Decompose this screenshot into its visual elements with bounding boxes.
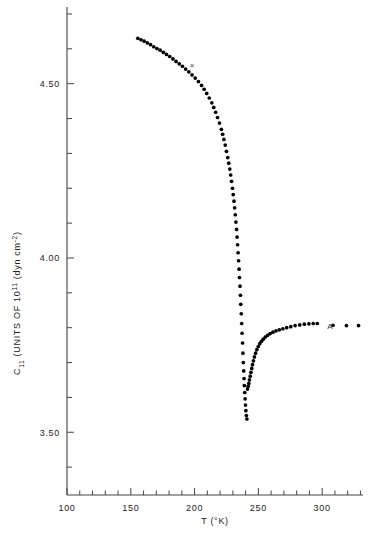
data-point <box>161 50 165 54</box>
data-point <box>250 367 254 371</box>
data-point <box>174 60 178 64</box>
data-point <box>274 329 278 333</box>
y-axis-subscript: 11 <box>18 360 25 368</box>
data-point <box>231 186 235 190</box>
data-point <box>302 322 306 326</box>
data-point <box>225 149 229 153</box>
data-point <box>240 322 244 326</box>
data-point <box>229 173 233 177</box>
y-axis-title: C11 (UNITS OF 1011 (dyn cm-2) <box>11 231 25 375</box>
data-point <box>242 369 246 373</box>
data-point <box>146 41 150 45</box>
data-point <box>238 284 242 288</box>
data-point <box>230 179 234 183</box>
data-point <box>149 43 153 47</box>
x-tick-label: 100 <box>58 503 75 513</box>
data-point <box>190 73 194 77</box>
data-point <box>242 377 246 381</box>
x-tick-label: 250 <box>250 503 267 513</box>
data-point <box>232 199 236 203</box>
x-axis-ticks <box>67 488 360 495</box>
data-point <box>181 64 185 68</box>
data-point <box>193 76 197 80</box>
data-point <box>231 193 235 197</box>
data-point <box>293 324 297 328</box>
svg-text:C11 (UNITS OF 1011 (dyn cm-2): C11 (UNITS OF 1011 (dyn cm-2) <box>11 231 25 375</box>
data-point <box>247 382 251 386</box>
data-point <box>253 355 257 359</box>
data-point <box>155 47 159 51</box>
y-axis-tick-labels: 3.504.004.50 <box>40 79 60 438</box>
data-point <box>357 324 361 328</box>
y-axis-symbol: C <box>12 368 22 375</box>
data-point <box>244 403 248 407</box>
figure-panel: 100150200250300 3.504.004.50 A× T (°K) C… <box>0 0 373 538</box>
data-point <box>235 235 239 239</box>
data-point <box>187 70 191 74</box>
data-point <box>251 363 255 367</box>
y-axis-ticks <box>67 14 74 467</box>
data-point <box>207 96 211 100</box>
data-point <box>235 228 239 232</box>
data-point <box>285 326 289 330</box>
data-point <box>242 384 246 388</box>
data-point <box>165 53 169 57</box>
y-axis-text-c: ) <box>12 231 22 235</box>
data-point <box>241 341 245 345</box>
series-upper-branch <box>136 37 249 421</box>
data-point <box>345 324 349 328</box>
data-point <box>236 251 240 255</box>
data-point <box>220 128 224 132</box>
data-point <box>197 80 201 84</box>
data-point <box>158 48 162 52</box>
data-point <box>233 213 237 217</box>
series-lower-branch <box>246 322 361 391</box>
data-point <box>239 293 243 297</box>
data-point <box>168 55 172 59</box>
curve-label-A: A <box>327 322 333 331</box>
data-point <box>214 110 218 114</box>
y-axis-superscript-a: 11 <box>11 282 18 290</box>
data-point <box>238 276 242 280</box>
data-point <box>315 322 319 326</box>
data-point <box>177 62 181 66</box>
data-point <box>243 397 247 401</box>
data-point <box>311 322 315 326</box>
data-point <box>136 37 140 41</box>
x-axis-tick-labels: 100150200250300 <box>58 503 330 513</box>
data-point <box>243 391 247 395</box>
data-point <box>307 322 311 326</box>
data-point <box>234 220 238 224</box>
data-point <box>184 67 188 71</box>
x-tick-label: 150 <box>122 503 139 513</box>
y-tick-label: 3.50 <box>40 428 60 438</box>
scatter-plot: 100150200250300 3.504.004.50 A× T (°K) C… <box>0 0 373 538</box>
data-point <box>239 312 243 316</box>
data-point <box>221 132 225 136</box>
cross-marker: × <box>190 61 195 70</box>
data-point <box>241 351 245 355</box>
data-point <box>249 370 253 374</box>
data-point <box>236 243 240 247</box>
axis-spines <box>67 7 363 495</box>
data-point <box>237 267 241 271</box>
data-point <box>245 414 249 418</box>
data-point <box>200 84 204 88</box>
y-axis-text-b: (dyn cm <box>12 242 22 279</box>
y-tick-label: 4.00 <box>40 253 60 263</box>
data-point <box>245 417 249 421</box>
data-point <box>233 206 237 210</box>
x-tick-label: 200 <box>186 503 203 513</box>
data-point <box>241 361 245 365</box>
data-point <box>216 116 220 120</box>
x-axis-title: T (°K) <box>201 516 229 526</box>
data-point <box>281 327 285 331</box>
data-point <box>252 359 256 363</box>
data-point <box>226 156 230 160</box>
data-point <box>254 351 258 355</box>
data-point <box>205 92 209 96</box>
data-point <box>237 259 241 263</box>
data-point <box>248 374 252 378</box>
data-point <box>210 101 214 105</box>
x-tick-label: 300 <box>314 503 331 513</box>
